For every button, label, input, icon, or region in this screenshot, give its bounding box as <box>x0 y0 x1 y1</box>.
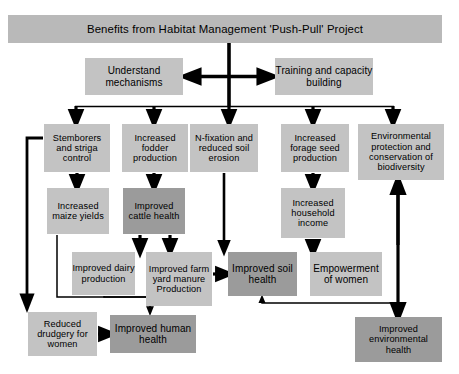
node-improved-farm-yard-manure-production[interactable]: Improved farm yard manure Production <box>146 252 212 306</box>
edge-envhealth-to-soilhealth <box>262 299 398 303</box>
node-training-capacity-building[interactable]: Training and capacity building <box>275 58 373 95</box>
edge-stemborers-to-drudgery <box>27 138 43 303</box>
node-stemborers-striga-control[interactable]: Stemborers and striga control <box>44 124 110 172</box>
node-improved-cattle-health[interactable]: Improved cattle health <box>123 188 185 234</box>
edge-dairy-to-humanhealth <box>104 296 150 297</box>
push-pull-benefits-flowchart: Benefits from Habitat Management 'Push-P… <box>0 0 459 374</box>
node-empowerment-of-women[interactable]: Empowerment of women <box>310 252 382 296</box>
node-reduced-drudgery-for-women[interactable]: Reduced drudgery for women <box>28 312 97 356</box>
node-improved-human-health[interactable]: Improved human health <box>110 315 196 353</box>
node-improved-dairy-production[interactable]: Improved dairy production <box>72 252 135 295</box>
node-understand-mechanisms[interactable]: Understand mechanisms <box>85 58 183 95</box>
node-environmental-protection-biodiversity[interactable]: Environmental protection and conservatio… <box>358 124 444 180</box>
node-n-fixation-reduced-soil-erosion[interactable]: N-fixation and reduced soil erosion <box>190 124 258 172</box>
node-increased-household-income[interactable]: Increased household income <box>281 188 345 238</box>
node-header-title: Benefits from Habitat Management 'Push-P… <box>8 15 442 43</box>
node-improved-soil-health[interactable]: Improved soil health <box>228 252 297 296</box>
node-increased-forage-seed-production[interactable]: Increased forage seed production <box>281 124 349 172</box>
node-increased-maize-yields[interactable]: Increased maize yields <box>47 188 109 234</box>
node-increased-fodder-production[interactable]: Increased fodder production <box>122 124 188 172</box>
node-improved-environmental-health[interactable]: Improved environmental health <box>355 317 442 362</box>
